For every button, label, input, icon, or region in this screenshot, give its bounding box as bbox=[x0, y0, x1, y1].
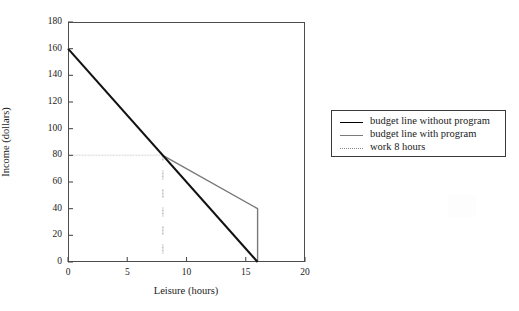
legend-item-budget-line-without-program: budget line without program bbox=[338, 115, 505, 128]
axis-ticks-layer bbox=[68, 22, 305, 262]
legend-label-2: work 8 hours bbox=[370, 142, 425, 153]
ytick-label-140: 140 bbox=[40, 71, 62, 81]
chart-figure: 0 20 40 60 80 100 120 140 160 180 0 5 10… bbox=[0, 0, 519, 311]
ytick-label-40: 40 bbox=[40, 204, 62, 214]
ytick-label-180: 180 bbox=[40, 17, 62, 27]
xtick-label-0: 0 bbox=[66, 268, 71, 278]
x-axis-title: Leisure (hours) bbox=[154, 285, 218, 296]
legend-label-0: budget line without program bbox=[370, 116, 490, 127]
solid-gray-line-icon bbox=[338, 129, 364, 141]
solid-black-line-icon bbox=[338, 116, 364, 128]
y-axis-title: Income (dollars) bbox=[0, 107, 11, 177]
xtick-label-5: 5 bbox=[125, 268, 130, 278]
xtick-label-10: 10 bbox=[182, 268, 192, 278]
ytick-label-20: 20 bbox=[40, 231, 62, 241]
ytick-label-100: 100 bbox=[40, 124, 62, 134]
xtick-label-20: 20 bbox=[300, 268, 310, 278]
legend-item-work-8-hours: work 8 hours bbox=[338, 141, 505, 154]
xtick-label-15: 15 bbox=[241, 268, 251, 278]
ytick-label-0: 0 bbox=[40, 257, 62, 267]
ytick-label-80: 80 bbox=[40, 151, 62, 161]
dotted-gray-line-icon bbox=[338, 142, 364, 154]
chart-legend: budget line without program budget line … bbox=[331, 110, 506, 157]
ytick-label-160: 160 bbox=[40, 44, 62, 54]
legend-label-1: budget line with program bbox=[370, 129, 476, 140]
legend-item-budget-line-with-program: budget line with program bbox=[338, 128, 505, 141]
ytick-label-60: 60 bbox=[40, 177, 62, 187]
ytick-label-120: 120 bbox=[40, 97, 62, 107]
scan-artifact bbox=[448, 195, 476, 217]
